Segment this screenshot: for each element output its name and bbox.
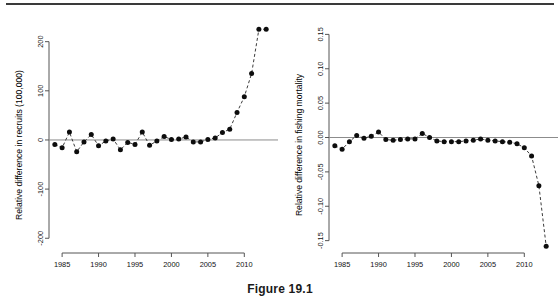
fishing-data-point <box>420 131 425 136</box>
recruits-data-point <box>198 139 203 144</box>
recruits-data-point <box>96 143 101 148</box>
chart-panel-recruits: Relative difference in recruits (100,000… <box>0 0 280 280</box>
fishing-x-axis-group: 198519901995200020052010 <box>334 253 533 269</box>
fishing-data-point <box>398 137 403 142</box>
fishing-data-point <box>515 141 520 146</box>
fishing-data-point <box>427 135 432 140</box>
recruits-data-point <box>264 27 269 32</box>
recruits-axis-title-group: Relative difference in recruits (100,000… <box>14 70 24 220</box>
fishing-x-tick-label: 1985 <box>334 260 350 269</box>
recruits-x-tick-label: 2000 <box>163 260 179 269</box>
recruits-x-tick-label: 1995 <box>127 260 143 269</box>
recruits-data-point <box>227 127 232 132</box>
fishing-data-point <box>471 138 476 143</box>
fishing-y-tick-label: 0.00 <box>316 130 325 144</box>
fishing-data-point <box>405 136 410 141</box>
fishing-y-tick-label: -0.10 <box>316 198 325 215</box>
fishing-y-axis-group: -0.15-0.10-0.050.000.050.100.15 <box>316 27 329 249</box>
recruits-y-axis-group: -200-1000100200 <box>36 35 49 245</box>
fishing-data-point <box>361 136 366 141</box>
fishing-y-tick-label: 0.15 <box>316 27 325 41</box>
fishing-x-tick-label: 2005 <box>480 260 496 269</box>
fishing-y-tick-label: 0.05 <box>316 96 325 110</box>
fishing-x-tick-label: 2000 <box>443 260 459 269</box>
fishing-data-point <box>478 136 483 141</box>
recruits-plot-svg: Relative difference in recruits (100,000… <box>0 0 280 280</box>
fishing-data-point <box>449 139 454 144</box>
recruits-x-tick-label: 2010 <box>236 260 252 269</box>
fishing-data-point <box>485 138 490 143</box>
fishing-y-tick-label: -0.15 <box>316 232 325 249</box>
fishing-data-point <box>500 139 505 144</box>
recruits-series-line <box>55 29 266 151</box>
recruits-y-tick-label: -100 <box>36 182 45 197</box>
recruits-x-tick-label: 1990 <box>90 260 106 269</box>
recruits-data-point <box>154 138 159 143</box>
fishing-y-tick-label: -0.05 <box>316 163 325 180</box>
fishing-data-point <box>412 136 417 141</box>
recruits-data-point <box>184 135 189 140</box>
recruits-x-tick-label: 2005 <box>200 260 216 269</box>
fishing-data-point <box>522 145 527 150</box>
recruits-x-axis-group: 198519901995200020052010 <box>54 253 253 269</box>
recruits-y-tick-label: 200 <box>36 35 45 47</box>
recruits-series-group <box>52 27 268 154</box>
fishing-x-tick-label: 1990 <box>370 260 386 269</box>
chart-panel-fishing-mortality: Relative difference in fishing mortality… <box>280 0 560 280</box>
recruits-data-point <box>103 138 108 143</box>
figure-caption: Figure 19.1 <box>0 282 560 296</box>
fishing-data-point <box>442 139 447 144</box>
recruits-y-axis-title: Relative difference in recruits (100,000… <box>14 70 24 220</box>
fishing-series-group <box>332 130 548 249</box>
fishing-x-tick-label: 1995 <box>407 260 423 269</box>
recruits-data-point <box>213 135 218 140</box>
recruits-data-point <box>52 142 57 147</box>
recruits-data-point <box>220 130 225 135</box>
fishing-data-point <box>464 138 469 143</box>
recruits-data-point <box>162 134 167 139</box>
recruits-data-point <box>81 139 86 144</box>
recruits-data-point <box>60 145 65 150</box>
fishing-data-point <box>369 134 374 139</box>
recruits-y-tick-label: 100 <box>36 85 45 97</box>
fishing-data-point <box>434 138 439 143</box>
fishing-data-point <box>507 140 512 145</box>
fishing-data-point <box>376 130 381 135</box>
fishing-axis-title-group: Relative difference in fishing mortality <box>294 73 304 216</box>
recruits-data-point <box>132 142 137 147</box>
recruits-data-point <box>235 110 240 115</box>
fishing-data-point <box>544 244 549 249</box>
fishing-data-point <box>391 138 396 143</box>
recruits-data-point <box>191 139 196 144</box>
recruits-x-tick-label: 1985 <box>54 260 70 269</box>
recruits-data-point <box>242 94 247 99</box>
fishing-series-line <box>335 132 546 246</box>
fishing-data-point <box>340 147 345 152</box>
fishing-data-point <box>347 139 352 144</box>
fishing-data-point <box>529 154 534 159</box>
recruits-data-point <box>89 132 94 137</box>
recruits-data-point <box>256 27 261 32</box>
fishing-mortality-plot-svg: Relative difference in fishing mortality… <box>280 0 560 280</box>
recruits-data-point <box>125 140 130 145</box>
fishing-data-point <box>456 139 461 144</box>
fishing-x-tick-label: 2010 <box>516 260 532 269</box>
recruits-data-point <box>140 130 145 135</box>
figure-page: Relative difference in recruits (100,000… <box>0 0 560 305</box>
recruits-data-point <box>111 136 116 141</box>
recruits-y-tick-label: 0 <box>36 138 45 142</box>
recruits-data-point <box>176 136 181 141</box>
recruits-data-point <box>74 149 79 154</box>
fishing-data-point <box>536 183 541 188</box>
fishing-data-point <box>383 137 388 142</box>
fishing-data-point <box>493 138 498 143</box>
fishing-y-tick-label: 0.10 <box>316 62 325 76</box>
recruits-y-tick-label: -200 <box>36 231 45 246</box>
recruits-data-point <box>67 130 72 135</box>
fishing-data-point <box>332 143 337 148</box>
recruits-data-point <box>249 71 254 76</box>
recruits-data-point <box>169 137 174 142</box>
recruits-data-point <box>205 137 210 142</box>
fishing-y-axis-title: Relative difference in fishing mortality <box>294 73 304 216</box>
recruits-data-point <box>118 147 123 152</box>
